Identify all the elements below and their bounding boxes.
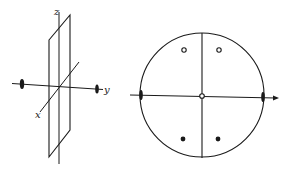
center-open-circle-icon — [200, 94, 205, 99]
twofold-axis-icon — [20, 79, 24, 89]
twofold-axis-icon — [95, 85, 99, 94]
filled-dot-pole-icon — [181, 137, 186, 142]
filled-dot-pole-icon — [216, 137, 221, 142]
open-circle-pole-icon — [182, 48, 186, 52]
twofold-axis-icon — [261, 92, 265, 102]
y-axis — [12, 84, 103, 90]
x-axis-label: x — [35, 109, 41, 120]
right-panel-stereogram — [130, 33, 279, 158]
arrow-head-icon — [273, 96, 279, 101]
symmetry-diagram: z y x — [0, 0, 286, 171]
z-axis-label: z — [53, 6, 60, 17]
open-circle-pole-icon — [217, 48, 221, 52]
twofold-axis-icon — [139, 90, 143, 100]
y-axis-label: y — [103, 84, 110, 95]
left-panel-3d-axes — [12, 12, 103, 164]
